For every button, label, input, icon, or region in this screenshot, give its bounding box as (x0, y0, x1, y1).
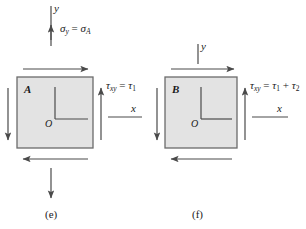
sigma-subscript-y: y (65, 27, 68, 36)
panel-e-y-axis-label: y (54, 3, 59, 14)
panel-e-element-letter: A (24, 84, 31, 95)
panel-f-origin-label: O (191, 119, 198, 129)
figure-vector-canvas (0, 0, 306, 229)
tau-value-subscript-2f: 2 (296, 84, 300, 93)
panel-f-x-axis-label: x (277, 103, 282, 114)
equals-sign-shear: = (119, 79, 125, 91)
panel-e-caption: (e) (45, 209, 57, 220)
panel-f-element-letter: B (172, 84, 179, 95)
stress-element-figure: y σy = σA A O x τxy = τ1 (e) y B O x τxy… (0, 0, 306, 229)
panel-f-y-axis-label: y (201, 41, 206, 52)
panel-f-shear-stress-label: τxy = τ1 + τ2 (250, 80, 299, 92)
panel-e-shear-stress-label: τxy = τ1 (106, 80, 136, 92)
equals-sign-shear-f: = (263, 79, 269, 91)
plus-sign: + (283, 79, 289, 91)
panel-e-origin-label: O (45, 119, 52, 129)
tau-subscript-xy: xy (110, 84, 117, 93)
equals-sign: = (72, 22, 78, 34)
panel-f-caption: (f) (192, 209, 203, 220)
tau-subscript-xy-f: xy (254, 84, 261, 93)
sigma-subscript-a: A (86, 27, 91, 36)
tau-value-subscript-1f: 1 (276, 84, 280, 93)
panel-e-x-axis-label: x (131, 103, 136, 114)
panel-e-normal-stress-label: σy = σA (60, 23, 90, 35)
tau-value-subscript-1: 1 (132, 84, 136, 93)
